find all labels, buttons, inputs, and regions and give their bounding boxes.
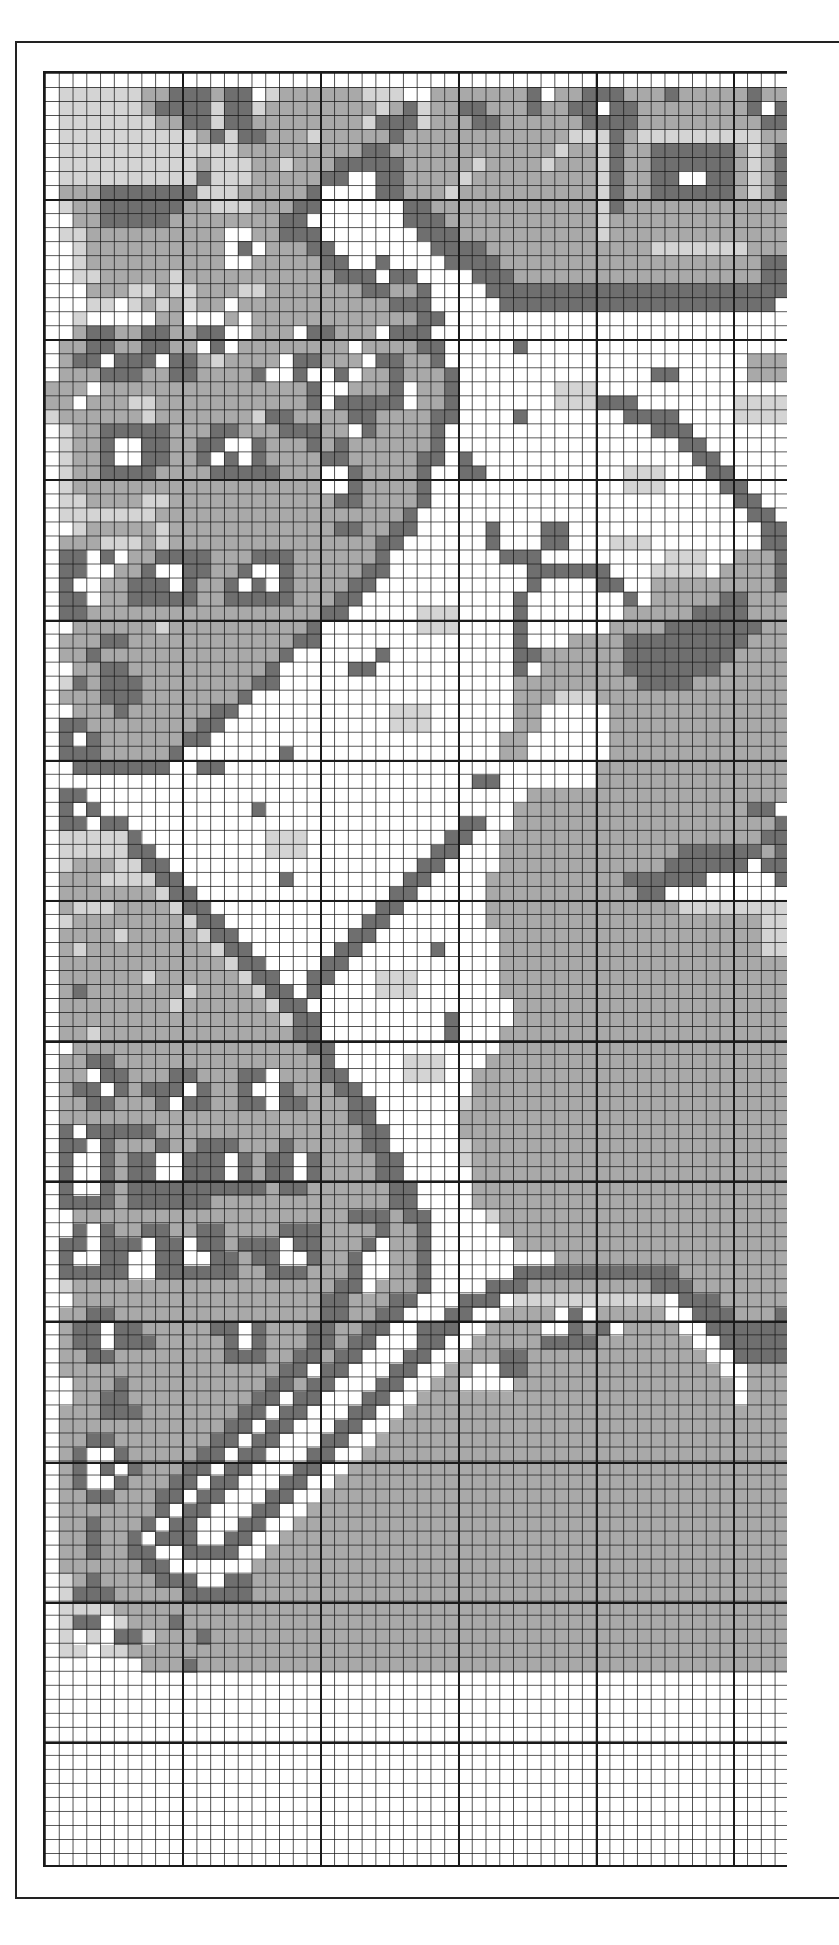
chart-cell	[224, 1687, 238, 1701]
chart-cell	[417, 789, 431, 803]
chart-cell	[734, 606, 748, 620]
chart-cell	[59, 1729, 73, 1743]
chart-cell	[376, 1588, 390, 1602]
chart-cell	[45, 957, 59, 971]
chart-cell	[293, 1757, 307, 1771]
chart-cell	[555, 1715, 569, 1729]
chart-cell	[665, 1490, 679, 1504]
chart-cell	[486, 732, 500, 746]
chart-cell	[610, 1392, 624, 1406]
chart-cell	[114, 1350, 128, 1364]
chart-cell	[362, 1841, 376, 1855]
chart-cell	[252, 1813, 266, 1827]
chart-cell	[293, 213, 307, 227]
chart-cell	[596, 1308, 610, 1322]
chart-cell	[224, 1139, 238, 1153]
chart-cell	[265, 1434, 279, 1448]
chart-cell	[210, 1224, 224, 1238]
chart-cell	[569, 1041, 583, 1055]
chart-cell	[513, 747, 527, 761]
chart-cell	[486, 1701, 500, 1715]
chart-cell	[362, 845, 376, 859]
chart-cell	[45, 1841, 59, 1855]
chart-cell	[321, 1252, 335, 1266]
chart-cell	[362, 452, 376, 466]
chart-cell	[114, 340, 128, 354]
chart-cell	[582, 873, 596, 887]
chart-cell	[114, 1167, 128, 1181]
chart-cell	[472, 410, 486, 424]
chart-cell	[775, 1588, 787, 1602]
chart-cell	[169, 1238, 183, 1252]
chart-cell	[582, 592, 596, 606]
chart-cell	[362, 1616, 376, 1630]
chart-cell	[665, 326, 679, 340]
chart-cell	[527, 340, 541, 354]
chart-cell	[114, 718, 128, 732]
chart-cell	[458, 1252, 472, 1266]
chart-cell	[362, 1224, 376, 1238]
chart-cell	[431, 690, 445, 704]
chart-cell	[279, 1350, 293, 1364]
chart-cell	[252, 1757, 266, 1771]
chart-cell	[114, 283, 128, 297]
chart-cell	[706, 1041, 720, 1055]
chart-cell	[197, 817, 211, 831]
chart-cell	[513, 761, 527, 775]
chart-cell	[775, 620, 787, 634]
chart-cell	[334, 831, 348, 845]
chart-cell	[748, 227, 762, 241]
chart-cell	[210, 101, 224, 115]
chart-cell	[513, 1069, 527, 1083]
chart-cell	[59, 1027, 73, 1041]
chart-cell	[541, 1252, 555, 1266]
chart-cell	[141, 1799, 155, 1813]
chart-cell	[252, 1574, 266, 1588]
chart-cell	[706, 1813, 720, 1827]
chart-cell	[265, 1518, 279, 1532]
chart-cell	[279, 831, 293, 845]
chart-cell	[307, 761, 321, 775]
chart-cell	[679, 1799, 693, 1813]
chart-cell	[486, 410, 500, 424]
chart-cell	[665, 1294, 679, 1308]
chart-cell	[348, 87, 362, 101]
chart-cell	[252, 298, 266, 312]
chart-cell	[169, 73, 183, 87]
chart-cell	[238, 1504, 252, 1518]
chart-cell	[265, 1659, 279, 1673]
chart-cell	[403, 732, 417, 746]
chart-cell	[693, 115, 707, 129]
chart-cell	[155, 999, 169, 1013]
chart-cell	[706, 1224, 720, 1238]
chart-cell	[445, 1518, 459, 1532]
chart-cell	[651, 466, 665, 480]
chart-cell	[486, 452, 500, 466]
chart-cell	[748, 1518, 762, 1532]
chart-cell	[665, 817, 679, 831]
chart-cell	[417, 803, 431, 817]
chart-cell	[486, 241, 500, 255]
chart-cell	[86, 1083, 100, 1097]
chart-cell	[610, 1588, 624, 1602]
chart-cell	[100, 101, 114, 115]
chart-cell	[651, 985, 665, 999]
chart-cell	[348, 915, 362, 929]
chart-cell	[265, 761, 279, 775]
chart-cell	[417, 985, 431, 999]
chart-cell	[706, 1027, 720, 1041]
chart-cell	[169, 1055, 183, 1069]
chart-cell	[265, 747, 279, 761]
chart-cell	[472, 1659, 486, 1673]
chart-cell	[693, 845, 707, 859]
chart-cell	[238, 1799, 252, 1813]
chart-cell	[307, 1252, 321, 1266]
chart-cell	[500, 676, 514, 690]
chart-cell	[59, 1476, 73, 1490]
chart-cell	[389, 1645, 403, 1659]
chart-cell	[527, 1420, 541, 1434]
chart-cell	[679, 943, 693, 957]
chart-cell	[128, 73, 142, 87]
chart-cell	[59, 1097, 73, 1111]
chart-cell	[775, 255, 787, 269]
